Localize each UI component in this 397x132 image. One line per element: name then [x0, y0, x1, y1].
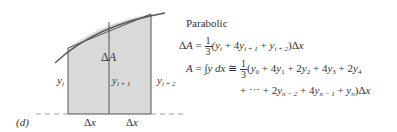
formula-line-2: A = ∫y dx ≅ 13(y0 + 4y1 + 2y2 + 4y3 + 2y…: [186, 59, 361, 80]
panel-label: (d): [16, 116, 29, 128]
ordinate-yi: yi: [57, 74, 64, 88]
formula-line-3: + ⋯ + 2yn − 2 + 4yn − 1 + yn)Δx: [240, 84, 370, 98]
area-label: ΔA: [101, 50, 116, 65]
fraction-one-third: 13: [205, 36, 212, 57]
formula-title: Parabolic: [186, 17, 228, 29]
interval-2: Δx: [126, 116, 138, 128]
ordinate-yi1: yi + 1: [112, 74, 131, 88]
ordinate-yi2: yi + 2: [157, 74, 176, 88]
formula-line-1: ΔA = 13(yi + 4yi + 1 + yi + 2)Δx: [179, 36, 304, 57]
interval-1: Δx: [84, 116, 96, 128]
fraction-one-third: 13: [240, 59, 247, 80]
